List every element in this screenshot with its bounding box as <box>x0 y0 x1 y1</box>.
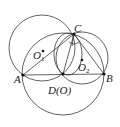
point-d <box>61 72 64 75</box>
point-o1 <box>42 50 45 53</box>
label-a: A <box>13 73 21 85</box>
geometry-diagram: C A B D(O) O 1 O 2 <box>0 0 120 127</box>
segment-ac <box>23 34 74 75</box>
circle-o1 <box>9 15 75 81</box>
label-b: B <box>106 72 113 84</box>
label-o2-sub: 2 <box>86 67 90 75</box>
point-a <box>21 73 24 76</box>
label-d: D(O) <box>47 84 72 97</box>
angle-mark-c <box>69 42 79 44</box>
diagram-canvas: C A B D(O) O 1 O 2 <box>0 0 120 127</box>
label-o1-sub: 1 <box>41 55 45 63</box>
label-o2: O <box>78 61 86 73</box>
label-c: C <box>74 22 82 34</box>
label-o1: O <box>33 49 41 61</box>
